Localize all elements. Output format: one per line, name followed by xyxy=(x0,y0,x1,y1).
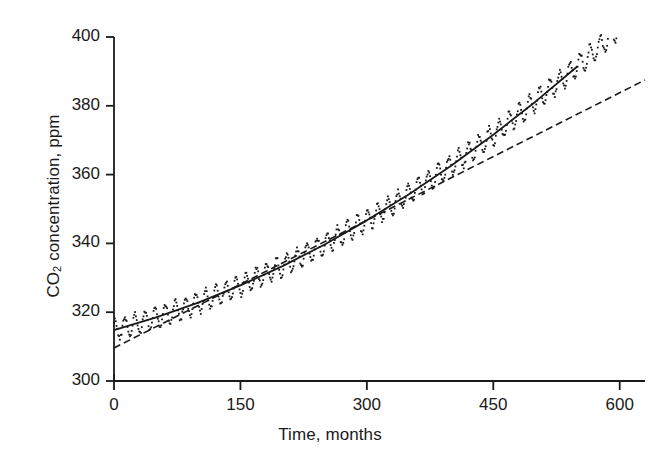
x-tick-label: 150 xyxy=(210,395,270,415)
x-tick-label: 0 xyxy=(84,395,144,415)
y-tick-label: 380 xyxy=(52,95,100,115)
y-tick-label: 320 xyxy=(52,301,100,321)
x-tick-label: 600 xyxy=(590,395,650,415)
y-axis-title-prefix: CO xyxy=(44,272,63,298)
linear-trend-line xyxy=(114,80,645,348)
scatter-data-points xyxy=(113,34,617,341)
x-axis-title: Time, months xyxy=(240,425,420,445)
y-tick-label: 300 xyxy=(52,370,100,390)
quadratic-trend-line xyxy=(114,66,578,330)
x-tick-label: 450 xyxy=(463,395,523,415)
y-axis-title-subscript: 2 xyxy=(51,266,63,272)
x-tick-label: 300 xyxy=(337,395,397,415)
y-axis-tick-marks xyxy=(106,37,114,381)
chart-figure: CO2 concentration, ppm Time, months 3003… xyxy=(0,0,665,464)
x-axis-tick-marks xyxy=(114,374,620,390)
y-tick-label: 400 xyxy=(52,26,100,46)
y-tick-label: 340 xyxy=(52,232,100,252)
y-tick-label: 360 xyxy=(52,164,100,184)
